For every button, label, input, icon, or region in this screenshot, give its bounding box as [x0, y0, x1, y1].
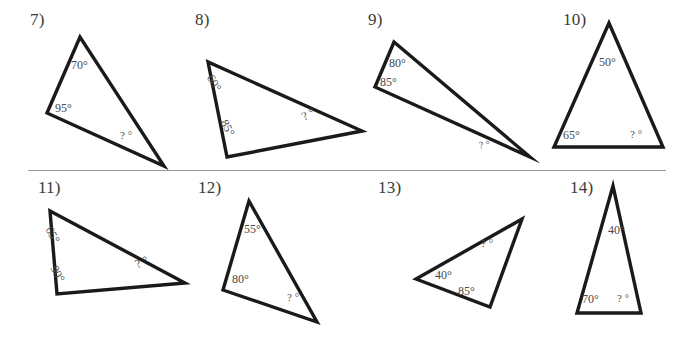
problem-p14: 14)40°70°? ° [0, 0, 694, 342]
angle-label: 40° [608, 223, 625, 238]
angle-label: 70° [582, 292, 599, 307]
unknown-angle-label: ? ° [617, 292, 629, 304]
triangle-figure [0, 0, 694, 342]
worksheet-page: 7)70°95°? °8)60°85°? °9)80°85°? °10)50°6… [0, 0, 694, 342]
